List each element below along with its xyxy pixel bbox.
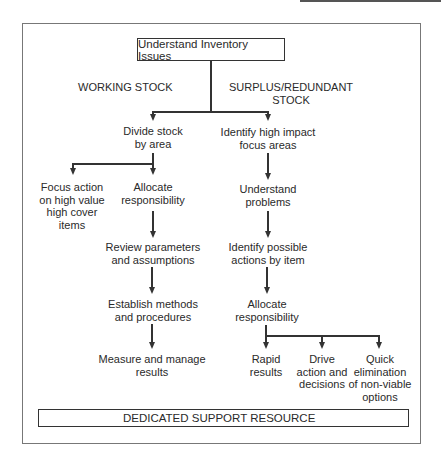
arrow-down-icon [70, 168, 76, 175]
connector [72, 163, 153, 165]
arrow-down-icon [149, 287, 155, 294]
node-allocate-responsibility-left: Allocateresponsibility [121, 181, 185, 206]
node-identify-high-impact: Identify high impactfocus areas [221, 126, 316, 151]
node-understand-problems: Understandproblems [240, 183, 297, 208]
top-edge-line [300, 0, 441, 2]
node-establish-methods: Establish methodsand procedures [108, 298, 198, 323]
node-quick-elimination: Quickelimination of non-viableoptions [349, 353, 412, 403]
arrow-down-icon [376, 342, 382, 349]
node-allocate-responsibility-right: Allocateresponsibility [235, 298, 299, 323]
dedicated-support-box: DEDICATED SUPPORT RESOURCE [38, 409, 409, 427]
arrow-down-icon [319, 342, 325, 349]
connector [210, 61, 212, 112]
node-rapid-results: Rapidresults [250, 353, 282, 378]
arrow-down-icon [150, 168, 156, 175]
arrow-down-icon [264, 287, 270, 294]
surplus-stock-heading: SURPLUS/REDUNDANT STOCK [229, 81, 353, 107]
root-label: Understand Inventory Issues [138, 38, 284, 62]
connector [152, 111, 269, 113]
node-drive-action: Driveaction and decisions [297, 353, 348, 391]
footer-label: DEDICATED SUPPORT RESOURCE [123, 412, 315, 424]
connector [265, 335, 380, 337]
arrow-down-icon [150, 231, 156, 238]
node-identify-actions: Identify possibleactions by item [229, 241, 308, 266]
node-review-parameters: Review parametersand assumptions [106, 241, 201, 266]
node-measure-manage: Measure and manageresults [98, 353, 205, 378]
arrow-down-icon [263, 342, 269, 349]
arrow-down-icon [265, 173, 271, 180]
arrow-down-icon [265, 114, 271, 121]
node-focus-action: Focus actionon high value high coveritem… [39, 181, 104, 231]
arrow-down-icon [265, 231, 271, 238]
arrow-down-icon [149, 342, 155, 349]
arrow-down-icon [150, 114, 156, 121]
working-stock-heading: WORKING STOCK [78, 81, 173, 94]
node-divide-stock: Divide stockby area [123, 125, 182, 150]
root-box: Understand Inventory Issues [137, 38, 285, 61]
